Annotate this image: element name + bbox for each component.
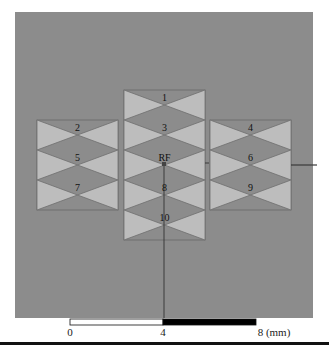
element-label: 6	[248, 153, 253, 163]
element-label: 1	[162, 93, 167, 103]
bottom-rule-divider	[0, 342, 329, 345]
element-label: 5	[75, 153, 80, 163]
scale-tick-label: 0	[67, 327, 73, 338]
scale-bar-white-segment	[70, 319, 163, 325]
element-label: 4	[248, 123, 253, 133]
element-label: 10	[160, 213, 170, 223]
scale-tick-label: 8 (mm)	[258, 327, 291, 338]
element-label: 9	[248, 183, 253, 193]
antenna-array-figure: 12345RF678910 048 (mm)	[0, 0, 329, 355]
scale-bar-black-segment	[163, 319, 256, 325]
element-label: 7	[75, 183, 80, 193]
element-label: 3	[162, 123, 167, 133]
element-label: 8	[162, 183, 167, 193]
array-layout-diagram	[0, 0, 329, 355]
element-label: 2	[75, 123, 80, 133]
element-label: RF	[158, 153, 170, 163]
scale-tick-label: 4	[160, 327, 166, 338]
